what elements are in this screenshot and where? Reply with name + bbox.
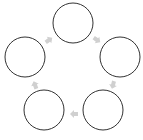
node-left <box>5 37 45 77</box>
node-top <box>53 3 93 43</box>
arrow-icon <box>91 34 102 45</box>
arrow-icon <box>30 80 40 90</box>
node-bottom-left <box>24 90 64 130</box>
arrow-icon <box>70 110 78 118</box>
node-bottom-right <box>83 90 123 130</box>
arrow-icon <box>43 34 54 45</box>
cycle-diagram <box>0 0 143 140</box>
nodes <box>5 3 140 130</box>
node-right <box>100 37 140 77</box>
arrow-icon <box>108 80 118 90</box>
